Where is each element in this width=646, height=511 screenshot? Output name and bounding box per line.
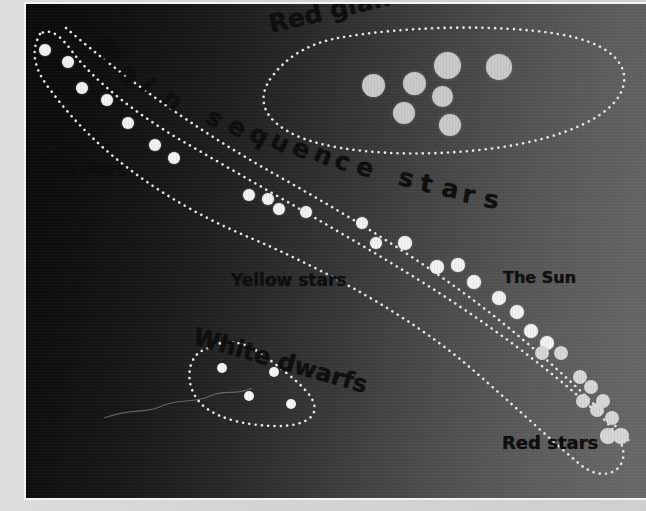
star-point <box>613 428 628 443</box>
main-sequence-band-outline <box>35 32 624 474</box>
star-point <box>149 139 161 151</box>
plot-area: Red giants Main sequence stars Blue star… <box>26 4 646 498</box>
label-the-sun: The Sun <box>503 268 576 287</box>
star-point <box>451 258 464 271</box>
star-point <box>524 324 538 338</box>
star-point <box>76 82 88 94</box>
star-point <box>486 54 512 80</box>
star-point <box>432 86 453 107</box>
star-point <box>403 72 426 95</box>
star-point <box>39 44 51 56</box>
star-point <box>362 74 385 97</box>
star-point <box>244 391 254 401</box>
star-point <box>62 56 74 68</box>
star-point <box>510 305 524 319</box>
star-point <box>430 260 443 273</box>
star-point <box>168 152 180 164</box>
star-point <box>286 399 296 409</box>
hr-diagram-figure: Red giants Main sequence stars Blue star… <box>26 4 646 498</box>
star-point <box>217 363 227 373</box>
star-point <box>101 94 113 106</box>
star-point <box>398 236 411 249</box>
star-point <box>439 114 461 136</box>
star-point <box>492 291 506 305</box>
star-point <box>434 52 461 79</box>
label-red-stars: Red stars <box>502 432 598 453</box>
star-point <box>122 117 134 129</box>
star-point <box>393 102 415 124</box>
label-yellow-stars: Yellow stars <box>231 270 346 290</box>
star-point <box>467 275 481 289</box>
faint-squiggle <box>104 388 252 418</box>
